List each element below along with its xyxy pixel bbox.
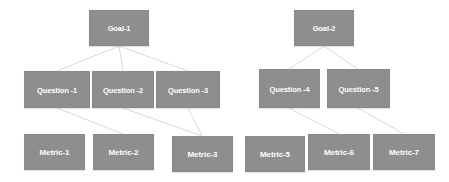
connector-line [119, 46, 188, 71]
connector-line [289, 108, 339, 134]
node-metric-7[interactable]: Metric-7 [373, 134, 435, 170]
node-question-1[interactable]: Question -1 [24, 71, 90, 108]
connector-line [123, 108, 202, 136]
connector-line [358, 108, 404, 134]
node-question-2[interactable]: Question -2 [92, 71, 154, 108]
node-label: Question -3 [168, 86, 208, 94]
node-label: Metric-1 [40, 149, 70, 157]
connector-line [57, 108, 123, 134]
node-metric-6[interactable]: Metric-6 [308, 134, 370, 170]
node-label: Metric-6 [324, 149, 354, 157]
node-label: Metric-3 [188, 151, 218, 159]
node-label: Goal-1 [108, 25, 131, 33]
node-metric-5[interactable]: Metric-5 [245, 136, 305, 172]
diagram-canvas: Goal-1Goal-2Question -1Question -2Questi… [0, 0, 449, 182]
node-label: Metric-7 [389, 149, 419, 157]
connector-line [57, 46, 119, 71]
connector-line [119, 46, 123, 71]
node-label: Question -2 [103, 86, 143, 94]
node-metric-1[interactable]: Metric-1 [24, 134, 85, 170]
node-label: Goal-2 [313, 25, 336, 33]
node-metric-3[interactable]: Metric-3 [172, 136, 233, 172]
connector-line [324, 46, 358, 69]
node-question-5[interactable]: Question -5 [327, 69, 390, 108]
node-label: Question -5 [338, 85, 378, 93]
connector-line [289, 46, 324, 69]
node-label: Metric-5 [260, 151, 290, 159]
node-goal-2[interactable]: Goal-2 [294, 10, 354, 46]
node-label: Question -4 [269, 85, 309, 93]
node-label: Question -1 [37, 86, 77, 94]
connector-line [188, 108, 202, 136]
node-question-3[interactable]: Question -3 [156, 71, 220, 108]
node-question-4[interactable]: Question -4 [259, 69, 320, 108]
node-label: Metric-2 [109, 149, 139, 157]
node-metric-2[interactable]: Metric-2 [93, 134, 154, 170]
node-goal-1[interactable]: Goal-1 [89, 10, 149, 46]
